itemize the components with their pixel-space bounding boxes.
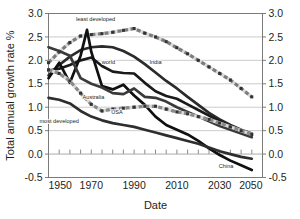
x-axis-tick-label: 1970 [80,179,104,191]
series-label-China: China [219,163,235,169]
series-marker [101,109,104,112]
y-axis-tick-label-left: 0.0 [28,148,43,160]
series-marker [175,110,178,113]
series-marker [165,40,168,43]
series-marker [143,105,146,108]
series-marker [250,95,253,98]
series-marker [218,72,221,75]
y-axis-tick-label-right: 2.5 [269,31,284,43]
series-label-least-developed: least developed [76,16,115,22]
x-axis-tick-label: 2010 [165,179,189,191]
y-axis-tick-label-right: 0.0 [269,148,284,160]
series-marker [229,79,232,82]
series-marker [154,105,157,108]
y-axis-tick-label-right: 0.5 [269,124,284,136]
y-axis-tick-label-right: 1.0 [269,101,284,113]
series-marker [90,103,93,106]
series-marker [218,122,221,125]
series-marker [197,115,200,118]
series-marker [165,108,168,111]
series-marker [68,41,71,44]
x-axis-tick-label: 2030 [208,179,232,191]
series-marker [240,129,243,132]
series-line-halo-USA [49,70,252,135]
series-marker [240,87,243,90]
chart-canvas: -0.5-0.50.00.00.50.51.01.01.51.52.02.02.… [0,0,300,219]
series-marker [68,79,71,82]
series-marker [186,52,189,55]
x-axis-title: Date [144,199,167,211]
series-marker [90,33,93,36]
series-marker [208,65,211,68]
series-marker [101,32,104,35]
x-axis-tick-label: 1990 [122,179,146,191]
series-label-world: world [101,59,115,65]
series-marker [208,118,211,121]
y-axis-tick-label-right: 1.5 [269,77,284,89]
y-axis-tick-label-left: -0.5 [24,171,42,183]
series-marker [186,112,189,115]
series-label-most-developed: most developed [39,118,79,124]
series-marker [58,72,61,75]
y-axis-tick-label-left: 3.0 [28,7,43,19]
series-marker [154,35,157,38]
series-marker [229,125,232,128]
series-marker [175,46,178,49]
series-marker [122,29,125,32]
y-axis-tick-label-right: 3.0 [269,7,284,19]
x-axis-tick-label: 2050 [239,179,263,191]
y-axis-tick-label-right: -0.5 [269,171,287,183]
series-marker [47,61,50,64]
growth-rate-line-chart: -0.5-0.50.00.00.50.51.01.01.51.52.02.02.… [0,0,300,219]
series-marker [197,59,200,62]
series-marker [79,34,82,37]
y-axis-tick-label-left: 1.0 [28,101,43,113]
x-axis-tick-label: 1950 [49,179,73,191]
series-marker [250,133,253,136]
series-marker [47,68,50,71]
y-axis-title: Total annual growth rate % [4,30,16,160]
series-label-Australia: Australia [83,94,106,100]
series-marker [133,27,136,30]
y-axis-tick-label-left: 2.5 [28,31,43,43]
series-marker [133,106,136,109]
series-label-India: India [149,59,162,65]
y-axis-tick-label-right: 2.0 [269,54,284,66]
y-axis-tick-label-left: 1.5 [28,77,43,89]
y-axis-tick-label-left: 0.5 [28,124,43,136]
series-marker [143,32,146,35]
series-marker [111,31,114,34]
series-label-USA: USA [111,109,123,115]
y-axis-tick-label-left: 2.0 [28,54,43,66]
